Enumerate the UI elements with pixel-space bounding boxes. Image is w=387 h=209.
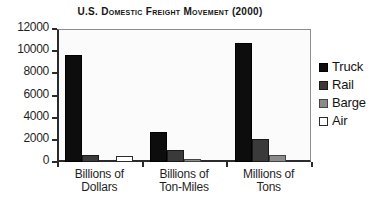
legend-item-truck[interactable]: Truck — [319, 58, 387, 76]
bar-truck — [235, 43, 252, 162]
y-axis-tick-label: 12000 — [17, 21, 49, 33]
legend-item-air[interactable]: Air — [319, 112, 387, 130]
y-axis-tick-label: 4000 — [24, 110, 50, 122]
chart-legend: TruckRailBargeAir — [319, 58, 387, 130]
bar-truck — [65, 55, 82, 163]
bar-group — [150, 29, 218, 162]
y-axis-tick-label: 2000 — [24, 132, 50, 144]
bar-group — [235, 29, 303, 162]
legend-swatch-icon — [319, 63, 328, 72]
legend-swatch-icon — [319, 117, 328, 126]
x-axis-tick-mark — [57, 162, 59, 167]
bar-chart: U.S. Domestic Freight Movement (2000) 02… — [0, 0, 387, 209]
legend-item-label: Rail — [332, 78, 354, 92]
y-axis-tick-label: 0 — [43, 154, 49, 166]
bar-rail — [167, 150, 184, 162]
x-axis-label: Billions ofDollars — [51, 168, 147, 194]
legend-item-label: Barge — [332, 96, 366, 110]
chart-title: U.S. Domestic Freight Movement (2000) — [0, 6, 340, 17]
bar-air — [116, 156, 133, 162]
x-axis-label-line: Tons — [221, 181, 317, 194]
y-axis-tick-label: 8000 — [24, 65, 50, 77]
y-axis-tick-label: 6000 — [24, 88, 50, 100]
x-axis-tick-mark — [142, 162, 144, 167]
legend-item-rail[interactable]: Rail — [319, 76, 387, 94]
y-axis-tick-label: 10000 — [17, 43, 49, 55]
bar-rail — [252, 139, 269, 162]
bar-barge — [184, 159, 201, 162]
bar-rail — [82, 155, 99, 162]
x-axis-tick-mark — [311, 162, 313, 167]
legend-item-barge[interactable]: Barge — [319, 94, 387, 112]
bar-barge — [269, 155, 286, 162]
x-axis-label-line: Dollars — [51, 181, 147, 194]
bar-truck — [150, 132, 167, 162]
bar-group — [65, 29, 133, 162]
x-axis-label: Billions ofTon-Miles — [136, 168, 232, 194]
x-axis-label-line: Ton-Miles — [136, 181, 232, 194]
legend-item-label: Air — [332, 114, 347, 128]
y-axis: 020004000600080001000012000 — [0, 29, 57, 162]
legend-swatch-icon — [319, 81, 328, 90]
legend-item-label: Truck — [332, 60, 363, 74]
legend-swatch-icon — [319, 99, 328, 108]
x-axis-tick-mark — [226, 162, 228, 167]
x-axis-label: Millions ofTons — [221, 168, 317, 194]
